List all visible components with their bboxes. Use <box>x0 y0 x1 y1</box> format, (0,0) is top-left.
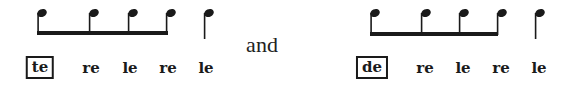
rhythm-pattern-2: de re le re le <box>332 0 565 93</box>
syllable-boxed: te <box>26 56 54 79</box>
quarter-note-icon <box>534 7 546 39</box>
quarter-note-icon <box>203 7 215 39</box>
eighth-note-icon <box>165 7 177 34</box>
eighth-note-icon <box>458 7 470 35</box>
syllable: re <box>159 59 176 77</box>
eighth-note-icon <box>496 7 508 35</box>
syllable: re <box>416 59 433 77</box>
connector-text: and <box>246 32 278 58</box>
beam <box>370 32 498 36</box>
beam <box>37 31 168 35</box>
eighth-note-icon <box>36 7 48 34</box>
syllable-boxed: de <box>356 56 388 79</box>
syllable: le <box>122 59 137 77</box>
eighth-note-icon <box>88 7 100 34</box>
syllable: le <box>455 59 470 77</box>
eighth-note-icon <box>420 7 432 35</box>
music-notation-1 <box>0 0 230 50</box>
rhythm-pattern-1: te re le re le <box>0 0 230 93</box>
syllable: le <box>531 59 546 77</box>
syllable: re <box>492 59 509 77</box>
syllable: le <box>198 59 213 77</box>
eighth-note-icon <box>127 7 139 34</box>
eighth-note-icon <box>369 7 381 35</box>
music-notation-2 <box>332 0 565 50</box>
syllable: re <box>82 59 99 77</box>
